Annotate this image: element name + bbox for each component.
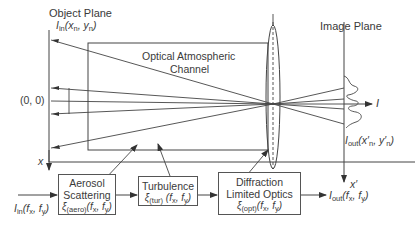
aerosol-scattering-block: Aerosol Scattering ξ(aero)(fx, fy) bbox=[58, 174, 116, 215]
turbulence-block: Turbulence ξ(tur) (fx, fy) bbox=[138, 176, 198, 206]
pipeline-output-label: Iout(fx, fy) bbox=[329, 190, 369, 203]
optics-line1: Diffraction bbox=[219, 176, 300, 188]
object-plane-label: Object Plane bbox=[49, 8, 112, 19]
object-x-axis-label: x bbox=[38, 156, 43, 167]
optics-transfer-function: ξ(opt)(fx, fy) bbox=[219, 200, 300, 215]
pipeline-input-label: Iin(fx, fy) bbox=[14, 203, 49, 216]
channel-label-line1: Optical Atmospheric bbox=[142, 51, 235, 62]
image-x-axis-label: x′ bbox=[350, 179, 357, 190]
object-intensity-label: Iin(xn, yn) bbox=[56, 20, 96, 33]
image-plane-label: Image Plane bbox=[320, 21, 382, 32]
channel-label-line2: Channel bbox=[170, 64, 209, 75]
optics-line2: Limited Optics bbox=[219, 188, 300, 200]
turbulence-line1: Turbulence bbox=[139, 180, 197, 192]
diffraction-optics-block: Diffraction Limited Optics ξ(opt)(fx, fy… bbox=[218, 172, 301, 215]
origin-label: (0, 0) bbox=[20, 95, 45, 106]
aerosol-transfer-function: ξ(aero)(fx, fy) bbox=[59, 201, 115, 216]
aerosol-line1: Aerosol bbox=[59, 177, 115, 189]
turbulence-pointer bbox=[158, 144, 170, 176]
intensity-axis-label: I bbox=[376, 98, 379, 109]
intensity-profile bbox=[344, 76, 361, 128]
aerosol-line2: Scattering bbox=[59, 189, 115, 201]
turbulence-transfer-function: ξ(tur) (fx, fy) bbox=[139, 192, 197, 207]
image-intensity-label: Iout(x′n, y′n) bbox=[345, 135, 394, 148]
ray-arrowheads bbox=[52, 39, 60, 149]
